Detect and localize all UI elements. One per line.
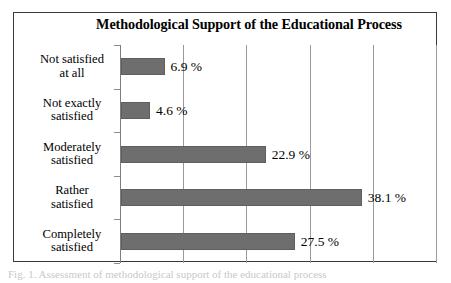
category-label-line: Not satisfied <box>24 53 120 66</box>
category-tick <box>114 263 120 264</box>
category-label-line: satisfied <box>24 110 120 123</box>
category-tick <box>114 89 120 90</box>
category-tick <box>114 132 120 133</box>
category-label: Completelysatisfied <box>24 228 120 255</box>
category-label-line: Completely <box>24 228 120 241</box>
chart-frame: Methodological Support of the Educationa… <box>13 12 437 262</box>
category-label-line: Not exactly <box>24 97 120 110</box>
category-label: Not exactlysatisfied <box>24 97 120 124</box>
chart-title: Methodological Support of the Educationa… <box>69 16 429 32</box>
category-tick <box>114 176 120 177</box>
category-label-line: Rather <box>24 184 120 197</box>
figure-caption-fragment: Fig. 1. Assessment of methodological sup… <box>8 268 444 280</box>
category-label: Moderatelysatisfied <box>24 141 120 168</box>
bar <box>121 58 165 75</box>
gridline-40 <box>373 45 374 263</box>
category-label-line: at all <box>24 67 120 80</box>
category-label: Not satisfiedat all <box>24 53 120 80</box>
bar-value-label: 22.9 % <box>272 146 310 163</box>
category-label-line: satisfied <box>24 198 120 211</box>
category-label: Rathersatisfied <box>24 184 120 211</box>
bar <box>121 102 150 119</box>
category-tick <box>114 45 120 46</box>
category-label-line: satisfied <box>24 241 120 254</box>
bar-value-label: 38.1 % <box>368 189 406 206</box>
bar-value-label: 4.6 % <box>156 102 188 119</box>
bar <box>121 189 362 206</box>
category-axis-labels: Not satisfiedat allNot exactlysatisfiedM… <box>22 45 120 263</box>
category-label-line: satisfied <box>24 154 120 167</box>
bar-value-label: 6.9 % <box>171 58 203 75</box>
category-label-line: Moderately <box>24 141 120 154</box>
category-tick <box>114 219 120 220</box>
bar <box>121 146 266 163</box>
gridline-50 <box>436 45 437 263</box>
bar-value-label: 27.5 % <box>301 233 339 250</box>
bar <box>121 233 295 250</box>
plot-area: 6.9 %4.6 %22.9 %38.1 %27.5 % <box>120 45 436 263</box>
